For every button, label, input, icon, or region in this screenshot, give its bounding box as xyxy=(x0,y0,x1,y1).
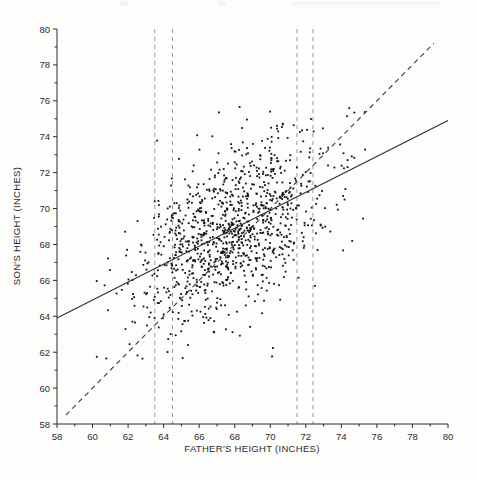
data-point xyxy=(309,147,311,149)
y-tick-label: 74 xyxy=(39,131,50,142)
data-point xyxy=(231,204,233,206)
data-point xyxy=(134,322,136,324)
data-point xyxy=(246,254,248,256)
data-point xyxy=(271,219,273,221)
data-point xyxy=(317,249,319,251)
data-point xyxy=(197,209,199,211)
data-point xyxy=(255,245,257,247)
data-point xyxy=(192,315,194,317)
data-point xyxy=(235,256,237,258)
data-point xyxy=(265,220,267,222)
data-point xyxy=(268,266,270,268)
data-point xyxy=(196,238,198,240)
data-point xyxy=(207,268,209,270)
data-point xyxy=(303,245,305,247)
x-tick-label: 62 xyxy=(123,431,134,442)
data-point xyxy=(204,198,206,200)
data-point xyxy=(263,207,265,209)
data-point xyxy=(235,177,237,179)
data-point xyxy=(212,229,214,231)
data-point xyxy=(290,196,292,198)
data-point xyxy=(204,306,206,308)
data-point xyxy=(160,241,162,243)
data-point xyxy=(213,188,215,190)
data-point xyxy=(229,204,231,206)
data-point xyxy=(206,317,208,319)
data-point xyxy=(222,184,224,186)
data-point xyxy=(198,233,200,235)
data-point xyxy=(232,241,234,243)
data-point xyxy=(163,287,165,289)
data-point xyxy=(246,147,248,149)
data-point xyxy=(178,247,180,249)
data-point xyxy=(246,198,248,200)
data-point xyxy=(230,272,232,274)
data-point xyxy=(183,235,185,237)
data-point xyxy=(248,296,250,298)
data-point xyxy=(178,312,180,314)
data-point xyxy=(234,150,236,152)
data-point xyxy=(256,170,258,172)
data-point xyxy=(175,234,177,236)
data-point xyxy=(251,183,253,185)
data-point xyxy=(172,217,174,219)
data-point xyxy=(290,208,292,210)
data-point xyxy=(124,231,126,233)
data-point xyxy=(216,223,218,225)
data-point xyxy=(262,222,264,224)
data-point xyxy=(183,230,185,232)
scatter-plot-figure: 586062646668707274767880 586062646668707… xyxy=(0,0,477,480)
data-point xyxy=(253,164,255,166)
data-point xyxy=(253,204,255,206)
data-point xyxy=(248,264,250,266)
data-point xyxy=(254,300,256,302)
data-point xyxy=(255,202,257,204)
data-point xyxy=(240,266,242,268)
data-point xyxy=(267,189,269,191)
data-point xyxy=(170,333,172,335)
data-point xyxy=(179,297,181,299)
data-point xyxy=(201,199,203,201)
data-point xyxy=(203,250,205,252)
data-point xyxy=(238,196,240,198)
data-point xyxy=(193,165,195,167)
data-point xyxy=(280,216,282,218)
data-point xyxy=(220,251,222,253)
data-point xyxy=(167,288,169,290)
data-point xyxy=(189,186,191,188)
data-point xyxy=(181,299,183,301)
data-point xyxy=(262,171,264,173)
data-point xyxy=(144,260,146,262)
data-point xyxy=(209,254,211,256)
data-point xyxy=(306,129,308,131)
data-point xyxy=(143,306,145,308)
data-point xyxy=(313,219,315,221)
data-point xyxy=(276,234,278,236)
data-point xyxy=(238,149,240,151)
data-point xyxy=(281,241,283,243)
data-point xyxy=(270,260,272,262)
data-point xyxy=(276,229,278,231)
data-point xyxy=(281,182,283,184)
data-point xyxy=(218,112,220,114)
data-point xyxy=(200,311,202,313)
data-point xyxy=(209,225,211,227)
data-point xyxy=(272,226,274,228)
data-point xyxy=(272,250,274,252)
data-point xyxy=(211,198,213,200)
data-point xyxy=(218,152,220,154)
data-point xyxy=(278,254,280,256)
data-point xyxy=(292,209,294,211)
data-point xyxy=(270,171,272,173)
data-point xyxy=(157,253,159,255)
data-point xyxy=(173,202,175,204)
data-point xyxy=(222,203,224,205)
data-point xyxy=(284,170,286,172)
data-point xyxy=(303,247,305,249)
data-point xyxy=(196,285,198,287)
data-point xyxy=(288,240,290,242)
data-point xyxy=(156,288,158,290)
data-point xyxy=(216,162,218,164)
data-point xyxy=(232,218,234,220)
data-point xyxy=(327,147,329,149)
